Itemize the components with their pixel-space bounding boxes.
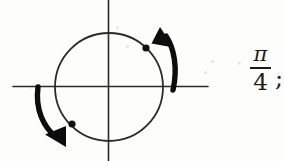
scan-speck (126, 45, 129, 48)
fraction-numerator: π (254, 44, 268, 66)
clockwise-arrow-lower-left (37, 87, 66, 147)
terminal-point-upper-right (142, 44, 149, 51)
fraction-pi-over-four: π 4 (250, 44, 271, 94)
scan-speck (30, 87, 32, 89)
scan-speck (238, 62, 241, 65)
diagram-canvas: π 4 ; (0, 0, 284, 161)
scan-speck (116, 26, 119, 29)
scan-speck (211, 60, 214, 63)
terminal-point-lower-left (68, 120, 75, 127)
semicolon-punctuation: ; (275, 64, 283, 94)
fraction-denominator: 4 (253, 71, 268, 94)
scan-speck (204, 71, 207, 74)
angle-measure-label: π 4 ; (250, 44, 283, 94)
unit-circle-figure (0, 0, 284, 161)
